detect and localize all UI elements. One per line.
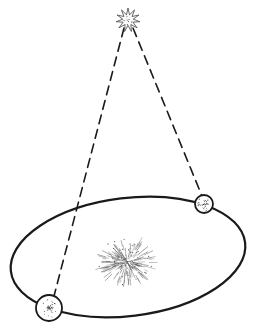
parallax-diagram xyxy=(0,0,256,331)
earth-globe-icon xyxy=(195,195,213,213)
sun-burst-icon xyxy=(95,237,157,286)
diagram-canvas xyxy=(0,0,256,331)
sightline-left xyxy=(54,28,124,296)
star-burst-icon xyxy=(116,8,140,32)
earth-globe-icon xyxy=(36,295,62,321)
sightlines xyxy=(54,28,202,296)
sightline-right xyxy=(133,28,202,196)
